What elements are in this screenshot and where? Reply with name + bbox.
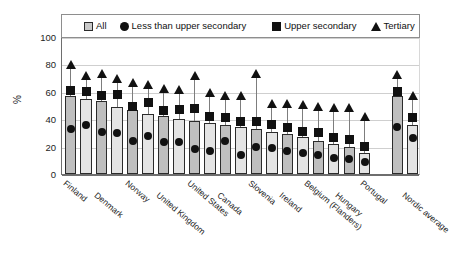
bar-group	[158, 37, 169, 174]
marker-upper-secondary[interactable]	[97, 91, 106, 100]
y-axis-tick-80: 80	[30, 60, 56, 70]
marker-tertiary[interactable]	[81, 71, 91, 80]
bar-group	[313, 37, 324, 174]
marker-upper-secondary[interactable]	[393, 87, 402, 96]
bar-group	[127, 37, 138, 174]
bar-group	[297, 37, 308, 174]
y-axis-tick-60: 60	[30, 88, 56, 98]
marker-tertiary[interactable]	[128, 78, 138, 87]
bar-group	[407, 37, 418, 174]
bar-all[interactable]	[407, 125, 418, 174]
marker-upper-secondary[interactable]	[113, 90, 122, 99]
x-axis-label-denmark: Denmark	[92, 190, 125, 220]
x-axis-label-finland: Finland	[61, 178, 89, 204]
bar-all[interactable]	[220, 125, 231, 174]
marker-upper-secondary[interactable]	[236, 117, 245, 126]
marker-less-than-upper-secondary[interactable]	[98, 128, 106, 136]
bar-group	[251, 37, 262, 174]
marker-less-than-upper-secondary[interactable]	[82, 121, 90, 129]
bar-all[interactable]	[142, 114, 153, 174]
bar-group	[142, 37, 153, 174]
marker-tertiary[interactable]	[159, 84, 169, 93]
marker-tertiary[interactable]	[298, 100, 308, 109]
marker-stem	[194, 75, 195, 120]
marker-tertiary[interactable]	[313, 102, 323, 111]
marker-less-than-upper-secondary[interactable]	[191, 145, 199, 153]
marker-less-than-upper-secondary[interactable]	[206, 147, 214, 155]
marker-upper-secondary[interactable]	[221, 113, 230, 122]
marker-tertiary[interactable]	[112, 74, 122, 83]
marker-upper-secondary[interactable]	[267, 120, 276, 129]
marker-upper-secondary[interactable]	[283, 123, 292, 132]
bar-all[interactable]	[266, 132, 277, 174]
marker-tertiary[interactable]	[251, 69, 261, 78]
marker-less-than-upper-secondary[interactable]	[237, 151, 245, 159]
marker-less-than-upper-secondary[interactable]	[252, 143, 260, 151]
marker-upper-secondary[interactable]	[82, 87, 91, 96]
marker-tertiary[interactable]	[66, 60, 76, 69]
bar-group	[65, 37, 76, 174]
legend-item-tertiary: Tertiary	[371, 21, 415, 31]
x-axis-label-slovenia: Slovenia	[247, 178, 278, 207]
y-axis-tick-100: 100	[30, 33, 56, 43]
marker-upper-secondary[interactable]	[175, 105, 184, 114]
square-marker-icon	[272, 22, 281, 31]
chart-legend: All Less than upper secondary Upper seco…	[61, 14, 420, 38]
x-axis-label-norway: Norway	[123, 178, 151, 204]
plot-area	[61, 38, 420, 175]
marker-less-than-upper-secondary[interactable]	[361, 158, 369, 166]
marker-tertiary[interactable]	[360, 112, 370, 121]
bar-group	[220, 37, 231, 174]
marker-tertiary[interactable]	[97, 69, 107, 78]
marker-tertiary[interactable]	[236, 91, 246, 100]
marker-less-than-upper-secondary[interactable]	[67, 125, 75, 133]
bar-swatch-icon	[84, 22, 93, 31]
marker-upper-secondary[interactable]	[360, 142, 369, 151]
legend-item-upper-secondary: Upper secondary	[272, 21, 356, 31]
marker-tertiary[interactable]	[190, 71, 200, 80]
marker-upper-secondary[interactable]	[252, 117, 261, 126]
marker-upper-secondary[interactable]	[314, 128, 323, 137]
marker-upper-secondary[interactable]	[128, 102, 137, 111]
marker-tertiary[interactable]	[408, 91, 418, 100]
marker-tertiary[interactable]	[267, 99, 277, 108]
bar-group	[204, 37, 215, 174]
marker-tertiary[interactable]	[329, 103, 339, 112]
marker-less-than-upper-secondary[interactable]	[113, 129, 121, 137]
bar-series-group	[62, 38, 419, 174]
legend-label-all: All	[96, 21, 107, 31]
bar-all[interactable]	[80, 99, 91, 174]
marker-less-than-upper-secondary[interactable]	[144, 132, 152, 140]
marker-tertiary[interactable]	[174, 85, 184, 94]
bar-all[interactable]	[111, 107, 122, 174]
marker-tertiary[interactable]	[282, 99, 292, 108]
marker-upper-secondary[interactable]	[159, 106, 168, 115]
marker-upper-secondary[interactable]	[408, 113, 417, 122]
bar-group	[344, 37, 355, 174]
marker-upper-secondary[interactable]	[144, 98, 153, 107]
marker-tertiary[interactable]	[143, 80, 153, 89]
marker-upper-secondary[interactable]	[205, 112, 214, 121]
bar-all[interactable]	[65, 96, 76, 174]
marker-less-than-upper-secondary[interactable]	[330, 154, 338, 162]
marker-tertiary[interactable]	[344, 103, 354, 112]
bar-all[interactable]	[251, 129, 262, 174]
marker-tertiary[interactable]	[205, 88, 215, 97]
bar-group	[282, 37, 293, 174]
marker-less-than-upper-secondary[interactable]	[268, 144, 276, 152]
marker-tertiary[interactable]	[220, 91, 230, 100]
bar-all[interactable]	[96, 101, 107, 174]
bar-all[interactable]	[392, 96, 403, 174]
marker-less-than-upper-secondary[interactable]	[129, 137, 137, 145]
marker-upper-secondary[interactable]	[298, 127, 307, 136]
bar-all[interactable]	[173, 119, 184, 174]
x-axis-label-portugal: Portugal	[358, 178, 389, 206]
marker-upper-secondary[interactable]	[66, 86, 75, 95]
bar-group	[80, 37, 91, 174]
y-axis-tick-40: 40	[30, 115, 56, 125]
marker-upper-secondary[interactable]	[190, 104, 199, 113]
bar-group	[328, 37, 339, 174]
marker-upper-secondary[interactable]	[345, 135, 354, 144]
marker-tertiary[interactable]	[392, 70, 402, 79]
marker-upper-secondary[interactable]	[329, 133, 338, 142]
